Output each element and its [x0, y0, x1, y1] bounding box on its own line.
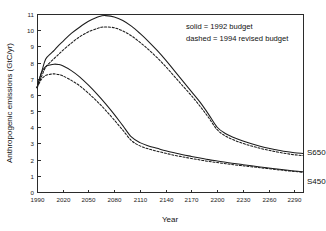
x-tick-label: 2080	[108, 196, 122, 203]
curve-s450-solid	[37, 64, 303, 172]
y-tick-label: 9	[31, 43, 35, 50]
y-tick-label: 3	[31, 140, 35, 147]
y-tick-label: 7	[31, 76, 35, 83]
y-tick-label: 6	[31, 92, 35, 99]
x-tick-label: 2140	[160, 196, 174, 203]
emissions-chart-figure: 01234567891011 1990202020502080211021402…	[0, 0, 326, 231]
x-tick-label: 2170	[185, 196, 199, 203]
curve-s650-dashed	[37, 27, 303, 156]
curve-s450-dashed	[37, 74, 303, 172]
x-tick-label: 2050	[82, 196, 96, 203]
x-tick-label: 1990	[31, 196, 45, 203]
x-tick-label: 2260	[263, 196, 277, 203]
y-tick-label: 1	[31, 173, 35, 180]
x-tick-label: 2020	[57, 196, 71, 203]
x-tick-label: 2290	[288, 196, 302, 203]
y-tick-label: 2	[31, 157, 35, 164]
y-axis-title: Anthropogenic emissions (GtC/yr)	[5, 43, 14, 163]
y-tick-label: 11	[28, 11, 35, 18]
legend-line-solid: solid = 1992 budget	[186, 22, 253, 31]
x-axis-tick-labels: 1990202020502080211021402170220022302260…	[31, 196, 302, 203]
legend-line-dashed: dashed = 1994 revised budget	[186, 34, 289, 43]
chart-svg: 01234567891011 1990202020502080211021402…	[0, 0, 326, 231]
x-tick-label: 2200	[211, 196, 225, 203]
y-tick-label: 8	[31, 60, 35, 67]
y-tick-label: 0	[31, 189, 35, 196]
series-label-s450: S450	[307, 177, 326, 186]
x-axis-title: Year	[162, 215, 179, 224]
y-tick-label: 10	[27, 27, 34, 34]
x-tick-label: 2230	[237, 196, 251, 203]
y-tick-label: 5	[31, 108, 35, 115]
series-label-s650: S650	[307, 148, 326, 157]
x-tick-label: 2110	[134, 196, 148, 203]
y-tick-label: 4	[31, 124, 35, 131]
y-axis-tick-labels: 01234567891011	[27, 11, 34, 196]
